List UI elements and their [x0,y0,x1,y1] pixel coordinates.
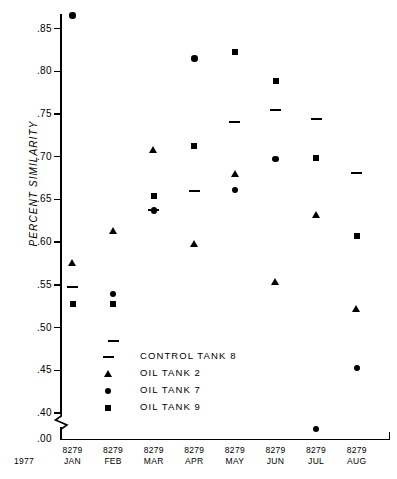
data-point-square [151,193,157,199]
x-axis-group-label: 8279JUL [293,445,339,467]
x-label-code: 8279 [253,445,299,456]
data-point-triangle [68,259,76,266]
data-point-square [70,301,76,307]
y-tick-label: .40 [12,407,52,418]
x-axis-group-label: 8279APR [171,445,217,467]
x-axis-group-label: 8279MAR [131,445,177,467]
y-tick [54,113,61,114]
data-point-square [354,233,360,239]
data-point-circle [69,12,75,18]
legend-label: OIL TANK 9 [140,401,201,412]
x-label-month: APR [171,456,217,467]
y-tick [54,241,61,242]
legend-label: CONTROL TANK 8 [140,350,237,361]
y-tick [54,28,61,29]
data-point-dash [229,121,240,123]
x-axis-end-tick [389,432,391,439]
data-point-square [232,49,238,55]
data-point-circle [313,426,319,432]
y-tick [54,156,61,157]
y-tick-label: .85 [12,23,52,34]
x-label-code: 8279 [131,445,177,456]
x-axis-line [60,439,390,441]
running-header [150,1,390,9]
data-point-square [313,155,319,161]
y-tick-label: .70 [12,151,52,162]
y-tick-label: .75 [12,108,52,119]
data-point-triangle [271,278,279,285]
data-point-circle [191,55,197,61]
legend-symbol-dash [103,356,114,358]
y-tick-label: .60 [12,236,52,247]
x-axis-group-label: 8279JUN [253,445,299,467]
data-point-circle [110,291,116,297]
legend-symbol-circle [105,388,111,394]
figure: PERCENT SIMILARITY .40.45.50.55.60.65.70… [0,0,397,479]
x-axis-group-label: 8279MAY [212,445,258,467]
x-label-month: JUL [293,456,339,467]
data-point-dash [351,172,362,174]
x-label-month: AUG [334,456,380,467]
y-tick [54,327,61,328]
y-tick [54,370,61,371]
x-label-code: 8279 [50,445,96,456]
data-point-triangle [149,146,157,153]
x-label-month: FEB [90,456,136,467]
y-tick-label: .55 [12,279,52,290]
y-tick [54,412,61,413]
data-point-circle [151,207,157,213]
data-point-circle [232,187,238,193]
data-point-dash [108,340,119,342]
x-axis-group-label: 8279JAN [50,445,96,467]
x-label-month: MAY [212,456,258,467]
data-point-triangle [231,170,239,177]
y-origin-label: .00 [12,433,52,444]
x-axis-group-label: 8279AUG [334,445,380,467]
x-axis-group-label: 8279FEB [90,445,136,467]
legend-symbol-triangle [104,370,112,377]
x-label-month: MAR [131,456,177,467]
legend-symbol-square [105,405,111,411]
data-point-square [273,78,279,84]
x-label-code: 8279 [334,445,380,456]
y-tick-label: .45 [12,364,52,375]
x-label-code: 8279 [293,445,339,456]
x-label-month: JUN [253,456,299,467]
data-point-square [191,143,197,149]
y-tick [54,284,61,285]
legend-label: OIL TANK 7 [140,384,201,395]
y-tick-label: .65 [12,193,52,204]
y-tick [54,199,61,200]
data-point-dash [67,286,78,288]
data-point-square [110,301,116,307]
x-label-month: JAN [50,456,96,467]
x-label-code: 8279 [90,445,136,456]
legend-label: OIL TANK 2 [140,367,201,378]
x-label-code: 8279 [212,445,258,456]
data-point-dash [270,109,281,111]
data-point-triangle [109,227,117,234]
y-tick-label: .50 [12,322,52,333]
data-point-triangle [312,211,320,218]
x-label-code: 8279 [171,445,217,456]
data-point-circle [272,156,278,162]
y-tick [54,71,61,72]
data-point-dash [311,118,322,120]
data-point-dash [189,190,200,192]
axis-break-icon [54,412,70,430]
data-point-triangle [190,240,198,247]
y-tick-label: .80 [12,65,52,76]
data-point-triangle [352,305,360,312]
data-point-circle [354,365,360,371]
y-axis-line [60,14,62,413]
x-axis-year-label: 1977 [14,456,34,466]
